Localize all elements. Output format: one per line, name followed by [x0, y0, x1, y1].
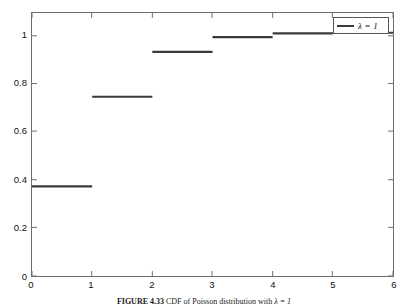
x-tick-label-0: 0: [21, 280, 41, 290]
y-tick-label-0.4: 0.4: [1, 175, 27, 185]
figure-container: 0 0.2 0.4 0.6 0.8 1 0 1 2 3 4 5 6 λ = 1 …: [0, 0, 408, 308]
plot-area: [31, 12, 394, 277]
legend-line-icon: [337, 25, 354, 27]
y-tick-marks: [32, 36, 393, 276]
y-tick-label-0.6: 0.6: [1, 126, 27, 136]
x-tick-label-2: 2: [142, 280, 162, 290]
caption-symbol: λ = 1: [274, 297, 291, 306]
x-tick-label-6: 6: [384, 280, 404, 290]
x-tick-label-1: 1: [81, 280, 101, 290]
figure-caption: FIGURE 4.33 CDF of Poisson distribution …: [0, 297, 408, 306]
x-tick-label-4: 4: [263, 280, 283, 290]
data-series-lambda-1: [32, 33, 393, 187]
legend: λ = 1: [333, 17, 389, 34]
step-plot-svg: [32, 13, 393, 276]
y-tick-label-0.8: 0.8: [1, 78, 27, 88]
x-tick-label-3: 3: [202, 280, 222, 290]
y-tick-label-0.2: 0.2: [1, 223, 27, 233]
y-tick-label-1: 1: [1, 30, 27, 40]
legend-entry-label: λ = 1: [358, 21, 378, 31]
x-tick-label-5: 5: [323, 280, 343, 290]
caption-label: FIGURE 4.33: [117, 297, 164, 306]
caption-text: CDF of Poisson distribution with: [166, 297, 272, 306]
